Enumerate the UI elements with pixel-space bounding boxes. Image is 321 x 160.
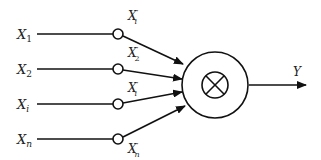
output-label-y: Y [293,65,302,79]
input-x1: X1 X′i [16,8,183,64]
input-xn: Xn X′n [16,106,185,159]
multiplication-node [182,52,248,118]
weighted-arrow-2 [123,70,182,79]
weight-node-1 [113,29,123,39]
input-label-xi: Xi [16,97,29,114]
input-xi: Xi X′i [16,80,182,114]
weighted-label-2: X′2 [127,45,139,63]
input-label-xn: Xn [16,132,32,149]
weight-node-n [113,134,123,144]
weight-node-2 [113,64,123,74]
weighted-arrow-n [123,106,185,137]
output: Y [249,65,306,85]
weighted-label-i: X′i [127,80,139,98]
input-label-x2: X2 [16,62,32,79]
neuron-diagram: X1 X′i X2 X′2 Xi X′i Xn X′n [0,0,321,160]
input-label-x1: X1 [16,27,32,44]
input-x2: X2 X′2 [16,45,182,79]
weighted-label-n: X′n [127,141,140,159]
weighted-label-1: X′i [127,8,139,26]
weight-node-i [113,99,123,109]
